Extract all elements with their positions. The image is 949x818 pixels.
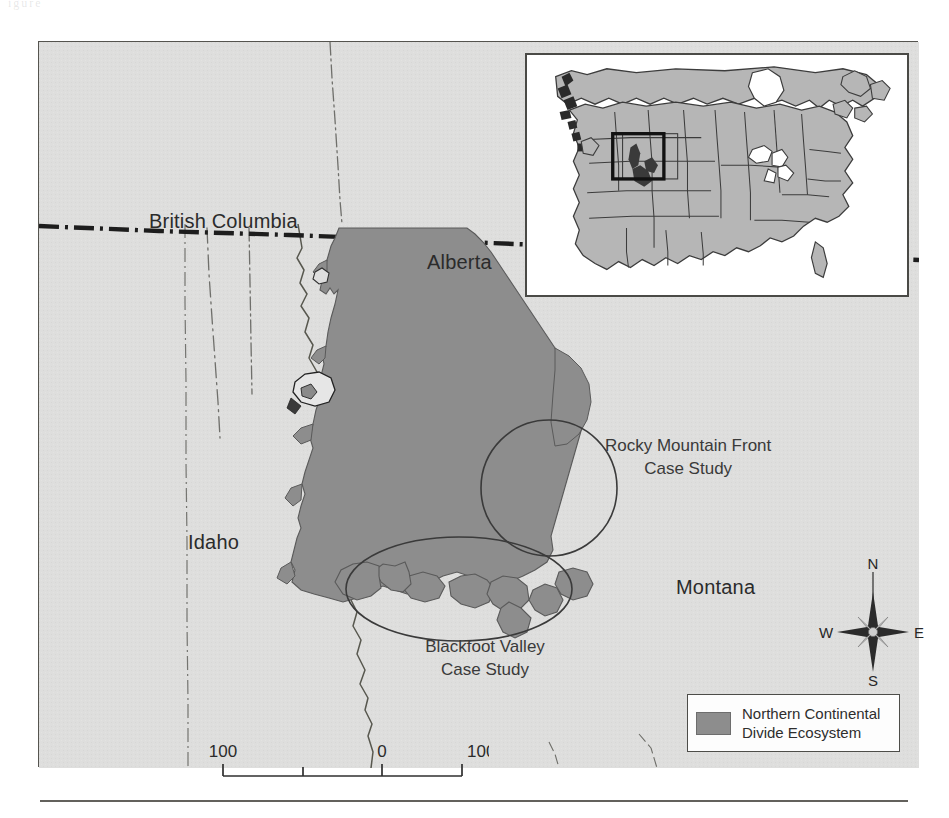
page-ghost-header: igure <box>0 0 949 18</box>
map-scalebar: 100 0 100 km <box>179 732 489 784</box>
rmf-line-2: Case Study <box>605 457 771 480</box>
compass-label-north: N <box>868 555 879 572</box>
compass-hub <box>869 628 878 637</box>
scalebar-label-center: 0 <box>377 742 386 761</box>
compass-label-east: E <box>914 624 924 641</box>
bfv-line-1: Blackfoot Valley <box>391 635 579 658</box>
compass-label-west: W <box>819 624 834 641</box>
scalebar-ticks <box>223 764 462 776</box>
map-label-alberta: Alberta <box>427 251 492 274</box>
map-label-montana: Montana <box>676 576 755 599</box>
legend-swatch-ncde <box>696 712 731 735</box>
figure-bottom-rule <box>40 800 908 802</box>
inset-graphic <box>527 55 907 295</box>
rocky-mountain-front-label: Rocky Mountain Front Case Study <box>605 434 771 480</box>
blackfoot-valley-label: Blackfoot Valley Case Study <box>391 635 579 681</box>
legend-label-line-2: Divide Ecosystem <box>742 723 880 742</box>
map-figure: British Columbia Alberta Idaho Montana R… <box>38 41 918 767</box>
scalebar-label-left: 100 <box>209 742 237 761</box>
compass-graphic: N E S W <box>815 552 931 688</box>
map-label-idaho: Idaho <box>188 531 239 554</box>
legend-label-line-1: Northern Continental <box>742 704 880 723</box>
rmf-line-1: Rocky Mountain Front <box>605 434 771 457</box>
compass-label-south: S <box>868 672 878 688</box>
compass-rose: N E S W <box>815 552 931 688</box>
legend-label-ncde: Northern Continental Divide Ecosystem <box>742 704 880 742</box>
inset-locator-map <box>525 53 909 297</box>
map-legend: Northern Continental Divide Ecosystem <box>687 694 900 752</box>
scalebar-label-right: 100 km <box>467 742 489 761</box>
map-label-british-columbia: British Columbia <box>149 210 298 233</box>
bfv-line-2: Case Study <box>391 658 579 681</box>
scalebar-graphic: 100 0 100 km <box>179 732 489 784</box>
